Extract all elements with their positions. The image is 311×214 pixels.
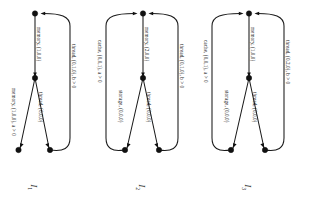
leaf-node-right [47, 147, 52, 152]
figure-root: memory, (1,0,0) memory, (1,0,0), a > 0 t… [0, 0, 311, 214]
caption-i3: I3 [241, 185, 252, 190]
leaf-node-left [122, 147, 127, 152]
edge-label-branch-to-leaf-left: memory, (1,0,0), a > 0 [11, 88, 16, 136]
back-edge-right [152, 14, 178, 151]
edge-label-branch-to-leaf-right: thread, (0,0,0) [252, 92, 257, 122]
edge-label-root-to-branch: memory, (2,0,0) [144, 27, 149, 61]
arrow-branch-to-leaf-right [154, 143, 158, 148]
root-node [32, 11, 37, 16]
arrow-branch-to-leaf-left [127, 143, 131, 148]
edge-label-back-edge-right: thread, (0,1,0), b > 0 [179, 44, 184, 88]
arrow-branch-to-leaf-right [45, 143, 49, 148]
edge-label-root-to-branch: memory, (1,0,0) [250, 27, 255, 61]
branch-node [246, 75, 251, 80]
edge-label-back-edge-left: cache, (0,0,1), a > 0 [203, 40, 208, 83]
caption-i2: I2 [135, 185, 146, 190]
edge-label-back-edge: thread, (0,1,0), b > 0 [71, 44, 76, 88]
arrow-back-edge-right [149, 12, 154, 16]
edge-label-branch-to-leaf-left: storage, (0,0,0) [118, 90, 123, 122]
edge-label-root-to-branch: memory, (1,0,0) [36, 27, 41, 61]
arrow-branch-to-leaf-left [20, 143, 24, 148]
edge-label-branch-to-leaf-right: thread, (0,0,0) [146, 92, 151, 122]
leaf-node-left [228, 147, 233, 152]
back-edge-left [212, 14, 240, 151]
back-edge [44, 14, 70, 151]
arrow-back-edge-right [255, 12, 260, 16]
leaf-node-right [156, 147, 161, 152]
back-edge-right [258, 14, 284, 151]
arrow-branch-to-leaf-right [260, 143, 264, 148]
caption-i1: I1 [27, 185, 38, 190]
arrow-back-edge [41, 12, 46, 16]
caption-i3-subscript: 3 [241, 187, 247, 190]
leaf-node-left [16, 147, 21, 152]
edge-label-back-edge-right: thread, (0,2,0), b > 0 [285, 40, 290, 84]
edge-branch-to-leaf-left [20, 78, 35, 148]
branch-node [140, 75, 145, 80]
diagram-i3: memory, (1,0,0) storage, (0,0,0) thread,… [200, 0, 311, 214]
edge-label-branch-to-leaf-left: storage, (0,0,0) [224, 90, 229, 122]
root-node [246, 11, 251, 16]
arrow-back-edge-left [239, 12, 244, 16]
diagram-i2: memory, (2,0,0) storage, (0,0,0) thread,… [100, 0, 203, 214]
diagram-i1: memory, (1,0,0) memory, (1,0,0), a > 0 t… [0, 0, 103, 214]
caption-i2-subscript: 2 [135, 187, 141, 190]
edge-label-branch-to-leaf-right: thread, (0,0,0) [38, 92, 43, 122]
leaf-node-right [262, 147, 267, 152]
edge-label-back-edge-left: cache, (0,0,1), a > 0 [97, 40, 102, 83]
arrow-branch-to-leaf-left [233, 143, 237, 148]
branch-node [32, 75, 37, 80]
caption-i1-subscript: 1 [27, 187, 33, 190]
arrow-back-edge-left [133, 12, 138, 16]
edge-branch-to-leaf-left [127, 78, 143, 148]
edge-branch-to-leaf-left [233, 78, 249, 148]
root-node [140, 11, 145, 16]
back-edge-left [106, 14, 134, 151]
